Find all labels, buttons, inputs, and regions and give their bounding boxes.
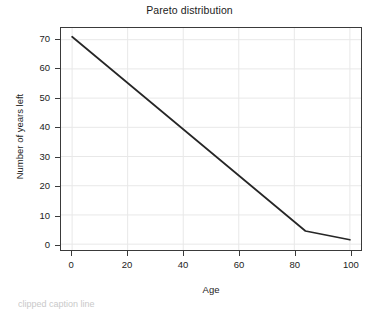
series-line-0 — [72, 37, 350, 240]
caption-strip: clipped caption line — [18, 300, 363, 310]
y-tick-mark — [55, 216, 60, 217]
caption-text: clipped caption line — [18, 300, 95, 309]
x-tick-label: 100 — [331, 259, 371, 270]
x-tick-label: 0 — [51, 259, 91, 270]
y-tick-mark — [55, 127, 60, 128]
plot-area — [60, 27, 362, 251]
x-tick-mark — [127, 251, 128, 256]
x-tick-label: 60 — [219, 259, 259, 270]
y-tick-mark — [55, 68, 60, 69]
data-line-series — [61, 28, 361, 250]
x-tick-mark — [183, 251, 184, 256]
y-tick-label: 20 — [28, 180, 50, 191]
y-tick-mark — [55, 186, 60, 187]
y-tick-label: 10 — [28, 210, 50, 221]
x-tick-label: 20 — [107, 259, 147, 270]
x-tick-label: 80 — [275, 259, 315, 270]
x-tick-mark — [239, 251, 240, 256]
x-tick-mark — [351, 251, 352, 256]
y-tick-label: 0 — [28, 239, 50, 250]
y-tick-label: 60 — [28, 62, 50, 73]
y-tick-label: 30 — [28, 151, 50, 162]
y-tick-label: 40 — [28, 121, 50, 132]
y-tick-label: 50 — [28, 92, 50, 103]
y-tick-mark — [55, 157, 60, 158]
x-axis-label: Age — [60, 284, 362, 295]
y-tick-mark — [55, 39, 60, 40]
x-tick-mark — [71, 251, 72, 256]
y-axis-label: Number of years left — [14, 62, 25, 212]
x-tick-mark — [295, 251, 296, 256]
chart-figure: Pareto distribution 010203040506070 0204… — [0, 0, 379, 310]
y-tick-mark — [55, 245, 60, 246]
y-tick-mark — [55, 98, 60, 99]
y-tick-label: 70 — [28, 33, 50, 44]
chart-title: Pareto distribution — [0, 4, 379, 16]
x-tick-label: 40 — [163, 259, 203, 270]
